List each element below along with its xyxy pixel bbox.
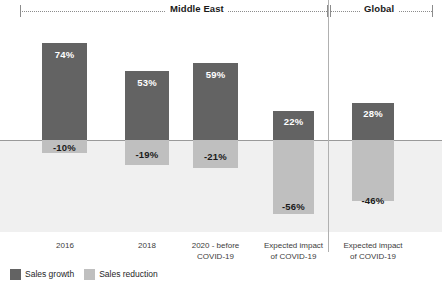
bar-value-positive-2020: 59% [193,69,238,80]
bar-value-positive-2016: 74% [42,49,87,60]
bar-negative-expected-impact-global[interactable] [352,140,394,201]
legend-swatch-sales-reduction [84,269,95,280]
legend-label-sales-reduction: Sales reduction [99,269,158,279]
legend-item-sales-growth[interactable]: Sales growth [10,269,74,280]
region-divider-line [328,0,329,252]
x-axis-label-2020: 2020 - before COVID-19 [182,241,249,262]
plot-area: 74% -10% 53% -19% 59% -21% 22% -56% 28% … [0,18,442,232]
legend-label-sales-growth: Sales growth [25,269,74,279]
x-axis-label-expected-impact-middle-east: Expected impact of COVID-19 [259,241,328,262]
bracket-tick-right-global [432,5,433,17]
chart-canvas: Middle East Global 74% -10% 53% -19% 59%… [0,0,442,293]
legend-swatch-sales-growth [10,269,21,280]
bar-value-negative-expected-impact-middle-east: -56% [273,201,314,212]
bar-value-positive-expected-impact-global: 28% [352,108,394,119]
x-axis-label-expected-impact-global: Expected impact of COVID-19 [338,241,408,262]
bar-value-negative-2020: -21% [193,151,238,162]
bar-value-negative-2018: -19% [125,149,169,160]
bracket-tick-left-global [330,5,331,17]
bracket-tick-left-middle-east [20,5,21,17]
bar-value-negative-expected-impact-global: -46% [352,195,394,206]
legend-item-sales-reduction[interactable]: Sales reduction [84,269,158,280]
x-axis-label-2018: 2018 [116,241,178,252]
bar-value-negative-2016: -10% [42,142,87,153]
bar-value-positive-expected-impact-middle-east: 22% [273,116,314,127]
x-axis-label-2016: 2016 [34,241,96,252]
chart-legend: Sales growth Sales reduction [10,267,158,281]
region-label-global: Global [360,3,398,15]
region-label-middle-east: Middle East [166,3,228,15]
bar-value-positive-2018: 53% [125,77,169,88]
